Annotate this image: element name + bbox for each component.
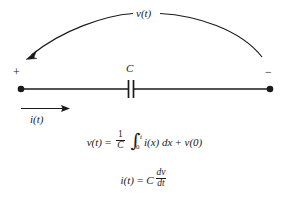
eq2-fraction-denominator: dt xyxy=(156,178,165,189)
eq1-integral-lower-limit: 0 xyxy=(136,143,140,151)
current-label: i(t) xyxy=(30,114,43,125)
eq1-integral-upper-limit: t xyxy=(140,133,144,141)
eq1-equals: = xyxy=(105,136,111,148)
voltage-arc-left-segment xyxy=(32,14,134,56)
terminal-node-left xyxy=(18,86,25,93)
voltage-arc-group xyxy=(26,14,262,60)
polarity-minus-label: − xyxy=(265,66,272,78)
equation-current: i(t) = C dv dt xyxy=(0,169,289,190)
voltage-arc-right-segment xyxy=(160,14,262,58)
capacitor-diagram-figure: v(t) + − C i(t) v(t) = 1 C ∫ t 0 i(x) dx… xyxy=(0,0,289,203)
voltage-arc-arrowhead-icon xyxy=(26,51,37,60)
voltage-arc-label: v(t) xyxy=(136,8,151,19)
eq1-integrand: i(x) dx xyxy=(144,136,172,148)
eq2-coefficient: C xyxy=(146,174,153,186)
equation-voltage: v(t) = 1 C ∫ t 0 i(x) dx + v(0) xyxy=(0,131,289,152)
eq2-fraction-dv-dt: dv dt xyxy=(156,168,167,189)
polarity-plus-label: + xyxy=(13,66,20,78)
eq2-lhs: i(t) xyxy=(121,174,134,186)
capacitor-label: C xyxy=(126,63,133,74)
eq1-lhs: v(t) xyxy=(87,136,102,148)
current-arrow-group xyxy=(21,105,70,112)
capacitor-symbol-icon xyxy=(129,80,134,98)
eq1-plus-operator: + xyxy=(175,136,181,148)
eq1-initial-condition: v(0) xyxy=(185,136,203,148)
eq1-fraction-one-over-c: 1 C xyxy=(116,130,124,151)
eq1-integral-limits: t 0 xyxy=(138,134,142,150)
eq1-fraction-numerator: 1 xyxy=(117,130,124,140)
terminal-node-right xyxy=(267,86,274,93)
eq2-equals: = xyxy=(137,174,143,186)
eq2-fraction-numerator: dv xyxy=(156,168,167,178)
eq1-integral: ∫ t 0 xyxy=(131,134,142,150)
eq1-fraction-denominator: C xyxy=(116,140,124,151)
